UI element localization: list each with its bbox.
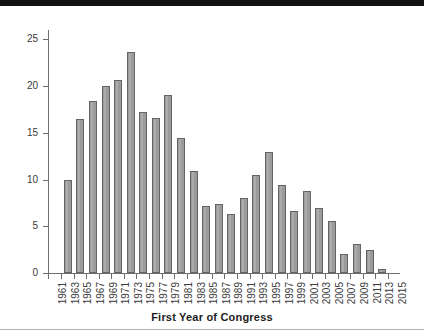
x-axis-tick [375,274,376,279]
x-axis-tick [86,274,87,279]
bar [102,86,110,273]
bar [315,208,323,273]
x-axis-tick [99,274,100,279]
chart-figure: 0510152025 19611963196519671969197119731… [0,6,424,329]
bar [353,244,361,273]
x-axis-tick [111,274,112,279]
x-axis-tick [325,274,326,279]
x-axis-tick-label: 2003 [322,282,332,304]
x-axis-tick [338,274,339,279]
x-axis-tick-label: 1987 [222,282,232,304]
x-axis-tick [262,274,263,279]
bar [164,95,172,273]
x-axis-tick [363,274,364,279]
bar [152,118,160,273]
bar [177,138,185,273]
bar [240,198,248,273]
x-axis-tick-label: 1965 [83,282,93,304]
x-axis-tick [212,274,213,279]
bar [127,52,135,273]
x-axis-tick [275,274,276,279]
x-axis-tick-label: 2011 [373,282,383,304]
x-axis-tick [187,274,188,279]
bar [252,175,260,273]
x-axis-tick [174,274,175,279]
bar [89,101,97,273]
x-axis-tick [300,274,301,279]
bottom-divider [0,329,424,330]
x-axis-tick-label: 1979 [171,282,181,304]
x-axis-tick-label: 2005 [335,282,345,304]
bar [190,171,198,273]
bar [328,221,336,273]
x-axis-tick-label: 1995 [272,282,282,304]
x-axis-tick [287,274,288,279]
x-axis-tick-label: 1975 [146,282,156,304]
x-axis-tick-label: 1971 [121,282,131,304]
x-axis-tick [136,274,137,279]
x-axis-tick-label: 2013 [385,282,395,304]
x-axis-tick-label: 2009 [360,282,370,304]
x-axis-tick [61,274,62,279]
x-axis-tick [224,274,225,279]
x-axis-tick-label: 1989 [234,282,244,304]
x-axis-tick-label: 1961 [58,282,68,304]
x-axis-tick-label: 1997 [285,282,295,304]
bar [215,204,223,273]
bar [139,112,147,273]
x-axis-tick-label: 2015 [398,282,408,304]
x-axis-tick-label: 1973 [134,282,144,304]
bar [278,185,286,273]
x-axis-tick-label: 1981 [184,282,194,304]
bar [366,250,374,273]
bar [114,80,122,273]
x-axis-tick [237,274,238,279]
x-axis-tick-label: 2001 [310,282,320,304]
x-axis-tick [74,274,75,279]
x-axis-tick-label: 1993 [259,282,269,304]
bar [265,152,273,273]
x-axis-tick [199,274,200,279]
x-axis-tick-label: 1963 [71,282,81,304]
x-axis-tick [48,274,49,279]
bars-layer [0,6,424,329]
bar [64,180,72,273]
x-axis-tick-label: 1977 [159,282,169,304]
chart-screenshot: 0510152025 19611963196519671969197119731… [0,0,424,336]
x-axis-tick [162,274,163,279]
x-axis-tick [388,274,389,279]
x-axis-tick [250,274,251,279]
bar [76,119,84,273]
bar [378,269,386,273]
x-axis-tick [124,274,125,279]
bar [202,206,210,273]
bar [303,191,311,273]
x-axis-tick-label: 1969 [109,282,119,304]
x-axis-tick-label: 1991 [247,282,257,304]
bar [340,254,348,273]
x-axis-tick-label: 1985 [209,282,219,304]
x-axis-tick [350,274,351,279]
x-axis-tick-label: 1967 [96,282,106,304]
bar [290,211,298,273]
x-axis-tick [149,274,150,279]
x-axis-tick-label: 2007 [347,282,357,304]
x-axis-tick-label: 1983 [197,282,207,304]
x-axis-title: First Year of Congress [0,311,424,323]
x-axis-tick [312,274,313,279]
bar [227,214,235,273]
x-axis-tick-label: 1999 [297,282,307,304]
